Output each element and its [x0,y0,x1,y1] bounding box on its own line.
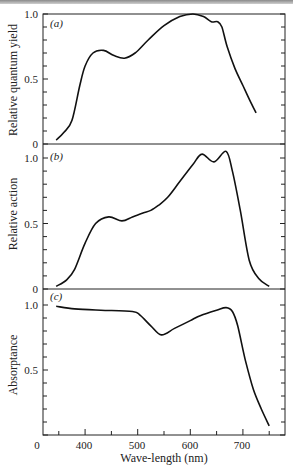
panel-c-ytick-mid: 0.5 [24,364,38,376]
panel-b-ytick-mid: 0.5 [24,218,38,230]
figure-caption-clipped [60,465,293,471]
x-tick-600: 600 [182,439,199,451]
panel-a-tag: (a) [50,17,63,30]
action-spectrum-curve [56,151,269,286]
panel-a-ytick-bottom: 0 [33,138,39,150]
x-axis-ticks [59,429,269,435]
panel-c-tag: (c) [50,290,63,303]
panel-b-ytick-bottom: 0 [33,283,39,295]
quantum-yield-curve [56,14,256,140]
panel-a-ytick-mid: 0.5 [24,73,38,85]
panel-b-tag: (b) [50,150,63,163]
panel-c-ytick-top: 1.0 [24,299,38,311]
panel-a-ylabel: Relative quantum yield [6,24,20,136]
panel-a-ytick-top: 1.0 [24,8,38,20]
data-curves [56,14,269,426]
x-tick-500: 500 [129,439,146,451]
absorptance-curve [56,306,269,426]
x-tick-700: 700 [234,439,251,451]
panel-b-ytick-top: 1.0 [24,152,38,164]
x-tick-0: 0 [34,439,40,451]
x-axis-title: Wave-length (nm) [120,451,207,465]
panel-c-ylabel: Absorptance [6,335,20,396]
x-tick-400: 400 [76,439,93,451]
stacked-spectrum-chart: 1.0 0.5 0 (a) Relative quantum yield 1.0… [0,0,293,471]
panel-b-ylabel: Relative action [6,178,20,250]
